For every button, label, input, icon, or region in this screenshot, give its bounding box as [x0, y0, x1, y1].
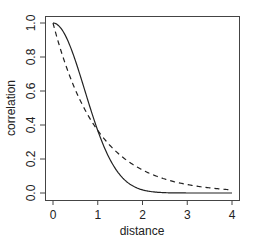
x-tick-label: 2	[139, 208, 146, 222]
y-tick-label: 0.2	[24, 150, 38, 167]
x-tick-label: 3	[184, 208, 191, 222]
y-tick-label: 1.0	[24, 14, 38, 31]
plot-frame	[46, 17, 240, 201]
axes: 012340.00.20.40.60.81.0	[24, 14, 236, 222]
x-tick-label: 4	[229, 208, 236, 222]
solid-series-line	[53, 23, 232, 193]
x-axis-label: distance	[120, 224, 165, 238]
x-tick-label: 0	[50, 208, 57, 222]
y-tick-label: 0.0	[24, 184, 38, 201]
y-tick-label: 0.6	[24, 82, 38, 99]
y-tick-label: 0.8	[24, 48, 38, 65]
dashed-series-line	[53, 23, 232, 190]
y-axis-label: correlation	[4, 80, 18, 136]
y-tick-label: 0.4	[24, 116, 38, 133]
series	[53, 23, 232, 193]
x-tick-label: 1	[94, 208, 101, 222]
correlation-chart: 012340.00.20.40.60.81.0 distance correla…	[0, 0, 255, 247]
